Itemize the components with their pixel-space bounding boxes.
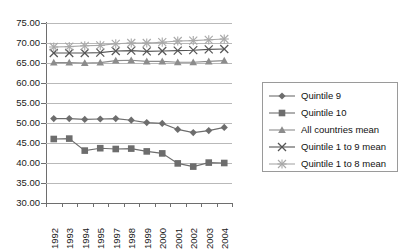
data-point-square: [205, 159, 212, 166]
data-point-asterisk: [111, 39, 120, 48]
data-point-diamond: [205, 127, 212, 134]
data-point-asterisk: [80, 41, 89, 50]
series-quintile-1-to-8-mean: [49, 34, 229, 51]
data-point-square: [279, 109, 286, 116]
data-point-diamond: [50, 115, 57, 122]
legend-marker-square-icon: [267, 105, 297, 121]
legend-label: Quintile 1 to 9 mean: [297, 141, 386, 152]
data-point-asterisk: [220, 34, 229, 43]
series-quintile-9: [50, 115, 228, 136]
data-point-square: [81, 147, 88, 154]
data-point-diamond: [221, 124, 228, 131]
data-point-square: [112, 146, 119, 153]
chart-container: 75.0070.0065.0060.0055.0050.0045.0040.00…: [0, 0, 403, 252]
legend-marker-cross-icon: [267, 139, 297, 155]
legend-key-quintile-1-to-9-mean: [267, 139, 297, 155]
legend-item-quintile-9[interactable]: Quintile 9: [267, 87, 393, 104]
data-point-asterisk: [127, 38, 136, 47]
legend-label: Quintile 9: [297, 90, 341, 101]
data-point-asterisk: [96, 41, 105, 50]
data-point-diamond: [112, 115, 119, 122]
legend-key-quintile-9: [267, 88, 297, 104]
data-point-square: [66, 135, 73, 142]
data-point-square: [221, 160, 228, 167]
legend-marker-diamond-icon: [267, 88, 297, 104]
legend-key-quintile-1-to-8-mean: [267, 156, 297, 172]
series-all-countries-mean: [50, 56, 228, 66]
data-point-asterisk: [189, 36, 198, 45]
legend-marker-triangle-icon: [267, 122, 297, 138]
data-point-square: [128, 145, 135, 152]
data-point-asterisk: [49, 42, 58, 51]
data-point-diamond: [278, 92, 285, 99]
legend-key-quintile-10: [267, 105, 297, 121]
legend-label: Quintile 1 to 8 mean: [297, 158, 386, 169]
legend-item-all-countries-mean[interactable]: All countries mean: [267, 121, 393, 138]
data-point-asterisk: [65, 42, 74, 51]
data-point-diamond: [159, 120, 166, 127]
data-point-diamond: [174, 126, 181, 133]
legend-item-quintile-10[interactable]: Quintile 10: [267, 104, 393, 121]
data-point-square: [50, 136, 57, 143]
series-quintile-10: [50, 135, 227, 170]
legend-item-quintile-1-to-8-mean[interactable]: Quintile 1 to 8 mean: [267, 155, 393, 172]
data-point-asterisk: [277, 159, 286, 168]
data-point-diamond: [97, 115, 104, 122]
data-point-diamond: [190, 129, 197, 136]
data-point-square: [97, 145, 104, 152]
data-point-asterisk: [142, 38, 151, 47]
data-point-diamond: [143, 119, 150, 126]
legend-item-quintile-1-to-9-mean[interactable]: Quintile 1 to 9 mean: [267, 138, 393, 155]
data-point-square: [143, 148, 150, 155]
legend-marker-asterisk-icon: [267, 156, 297, 172]
data-point-diamond: [66, 115, 73, 122]
data-point-asterisk: [158, 38, 167, 47]
data-point-asterisk: [173, 36, 182, 45]
series-quintile-1-to-9-mean: [50, 45, 229, 57]
legend-key-all-countries-mean: [267, 122, 297, 138]
legend-label: Quintile 10: [297, 107, 346, 118]
data-point-square: [159, 150, 166, 157]
data-point-diamond: [81, 116, 88, 123]
data-point-square: [174, 160, 181, 167]
data-point-asterisk: [204, 35, 213, 44]
data-point-square: [190, 163, 197, 170]
legend-label: All countries mean: [297, 124, 379, 135]
chart-legend: Quintile 9 Quintile 10 All countries mea…: [262, 82, 398, 172]
data-point-diamond: [128, 117, 135, 124]
